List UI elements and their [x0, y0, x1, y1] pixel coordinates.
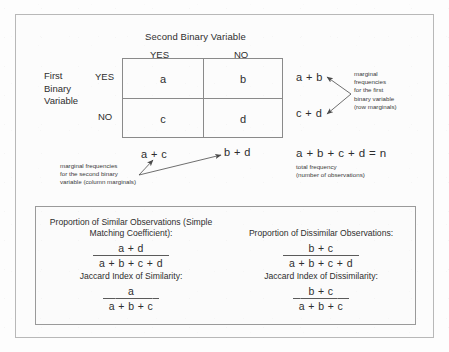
formula-jaccard-similarity: Jaccard Index of Similarity: a a + b + c — [36, 271, 226, 314]
contingency-table: a b c d — [122, 58, 283, 138]
row-marginal-no: c + d — [296, 107, 322, 119]
formulas-left-column: Proportion of Similar Observations (Simp… — [36, 207, 226, 324]
formula-dissimilar-title: Proportion of Dissimilar Observations: — [226, 228, 416, 239]
total-frequency-note: total frequency (number of observations) — [296, 163, 416, 179]
row-header-yes: YES — [95, 71, 114, 82]
formula-dissimilar-numerator: b + c — [283, 242, 359, 255]
row-variable-title-line-3: Variable — [44, 95, 78, 108]
formula-jaccard-dissimilarity-denominator: a + b + c — [293, 298, 349, 312]
formula-dissimilar: Proportion of Dissimilar Observations: b… — [226, 228, 416, 271]
formula-simple-matching: Proportion of Similar Observations (Simp… — [36, 217, 226, 271]
column-variable-title: Second Binary Variable — [145, 31, 246, 42]
row-header-no: NO — [98, 111, 112, 122]
table-cell-a: a — [123, 59, 203, 98]
table-cell-b: b — [203, 59, 283, 98]
figure-page: Second Binary Variable YES NO First Bina… — [0, 0, 449, 352]
formula-jaccard-dissimilarity-fraction: b + c a + b + c — [293, 285, 349, 312]
formula-jaccard-similarity-title: Jaccard Index of Similarity: — [36, 271, 226, 282]
formula-jaccard-similarity-numerator: a — [103, 285, 159, 298]
formula-simple-matching-denominator: a + b + c + d — [93, 255, 169, 269]
formula-jaccard-dissimilarity-title: Jaccard Index of Dissimilarity: — [226, 271, 416, 282]
row-marginal-yes: a + b — [296, 71, 323, 83]
total-frequency-expression: a + b + c + d = n — [296, 147, 387, 159]
formula-jaccard-dissimilarity: Jaccard Index of Dissimilarity: b + c a … — [226, 271, 416, 314]
formula-simple-matching-numerator: a + d — [93, 242, 169, 255]
table-cell-d: d — [203, 99, 283, 138]
formula-dissimilar-denominator: a + b + c + d — [283, 255, 359, 269]
formulas-right-column: Proportion of Dissimilar Observations: b… — [226, 207, 416, 324]
formulas-panel: Proportion of Similar Observations (Simp… — [35, 206, 416, 325]
row-variable-title: First Binary Variable — [44, 70, 78, 108]
row-marginal-note: marginal frequencies for the first binar… — [354, 70, 426, 111]
row-variable-title-line-1: First — [44, 70, 78, 83]
table-cell-c: c — [123, 99, 203, 138]
column-marginal-yes: a + c — [141, 148, 167, 160]
formula-jaccard-dissimilarity-numerator: b + c — [293, 285, 349, 298]
column-marginal-note: marginal frequencies for the second bina… — [60, 162, 170, 187]
column-marginal-no: b + d — [224, 146, 251, 158]
formula-jaccard-similarity-fraction: a a + b + c — [103, 285, 159, 312]
formula-simple-matching-title: Proportion of Similar Observations (Simp… — [36, 217, 226, 239]
formula-simple-matching-fraction: a + d a + b + c + d — [93, 242, 169, 269]
formula-jaccard-similarity-denominator: a + b + c — [103, 298, 159, 312]
formula-dissimilar-fraction: b + c a + b + c + d — [283, 242, 359, 269]
row-variable-title-line-2: Binary — [44, 83, 78, 96]
